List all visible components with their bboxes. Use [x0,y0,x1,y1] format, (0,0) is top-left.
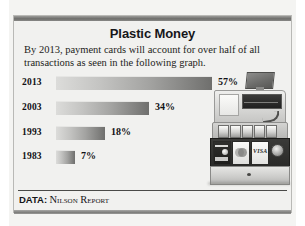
source-keyword: DATA: [19,194,47,205]
discover-card-orb [222,149,228,155]
bar-fill [56,126,105,140]
bar-category-label: 2003 [22,102,52,112]
register-keyhole-icon [271,144,284,157]
register-shadow [208,182,290,185]
top-rule [14,16,291,21]
discover-card-band [215,157,228,161]
bar-fill [56,76,212,90]
register-drawer-knob [247,173,251,176]
bar-fill [56,150,75,164]
register-key [218,125,229,138]
bar-category-label: 1993 [22,127,52,137]
bar-category-label: 1983 [22,151,52,161]
source-note: DATA: Nilson Report [19,194,109,205]
register-key [242,125,253,138]
bar-fill [56,101,149,115]
paper-edge-left [0,0,9,226]
register-display-line [244,102,278,103]
discover-card-stripe [215,145,228,147]
footer-rule [18,190,287,191]
bottom-rule [14,210,291,214]
bar-value-label: 7% [81,150,96,161]
register-key [230,125,241,138]
infographic-figure: Plastic Money By 2013, payment cards wil… [0,0,305,226]
mastercard-circle-right [238,148,247,157]
mastercard-card-icon [232,141,250,165]
visa-card-icon: VISA [251,141,269,165]
figure-subtitle: By 2013, payment cards will account for … [24,44,276,69]
bar-value-label: 34% [155,101,175,112]
register-key [254,125,265,138]
register-printer [219,94,239,116]
cash-register-illustration: VISA [206,72,288,184]
register-key [266,125,277,138]
visa-card-label: VISA [253,148,267,154]
bar-category-label: 2013 [22,77,52,87]
figure-title: Plastic Money [14,26,291,41]
source-name: Nilson Report [50,194,110,205]
paper-edge-right [296,0,305,226]
bar-value-label: 18% [111,126,131,137]
discover-card-icon [213,141,231,165]
